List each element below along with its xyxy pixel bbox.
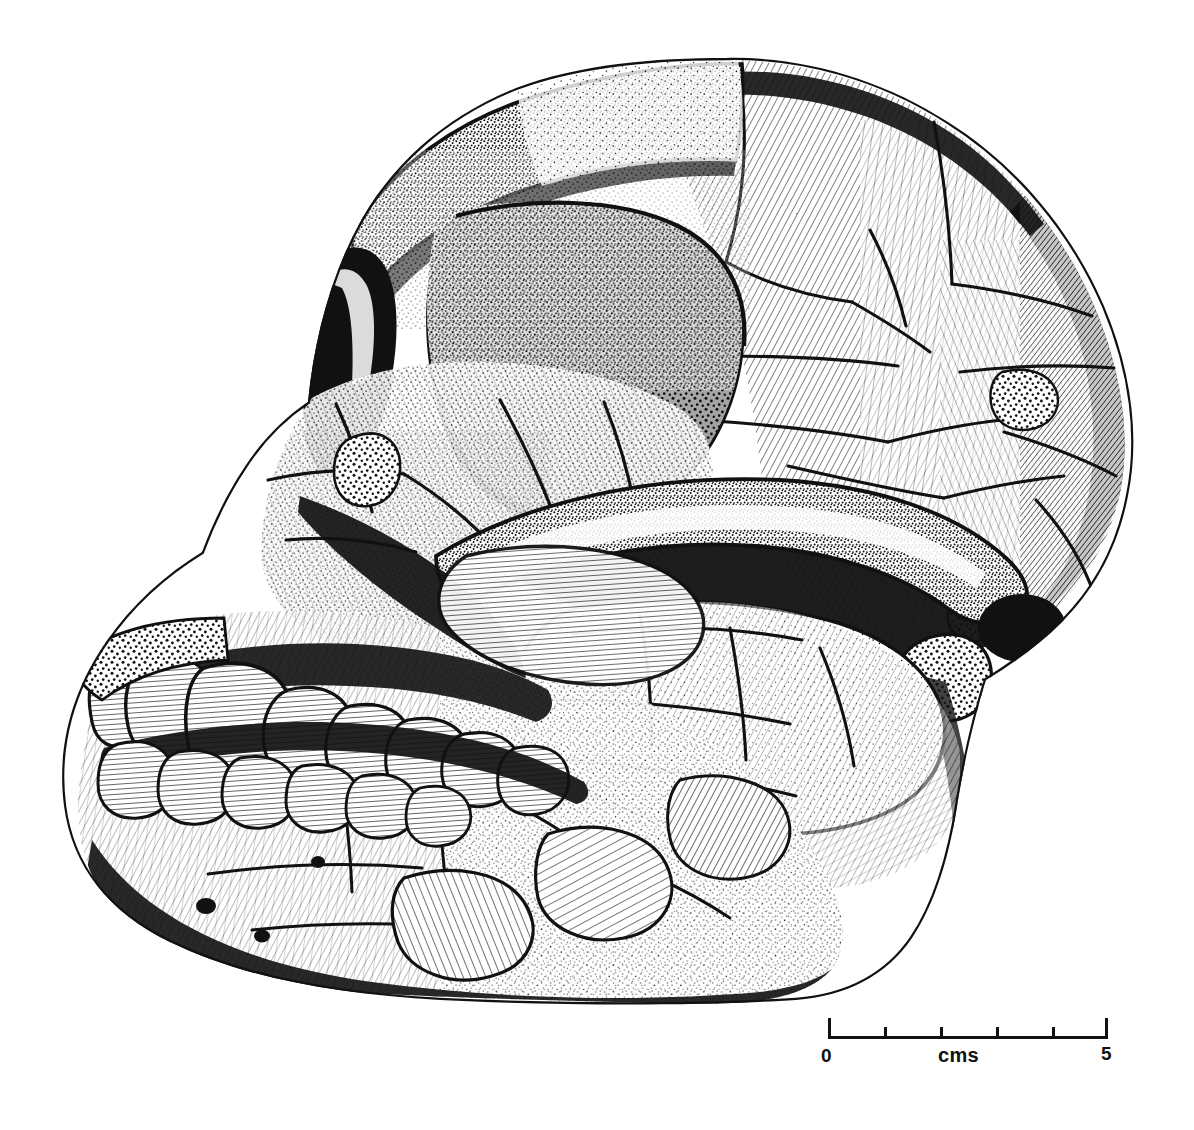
scale-tick-5: [1105, 1018, 1108, 1039]
scale-tick-1: [884, 1027, 887, 1039]
maxilla-damage-nodule: [334, 434, 400, 507]
figure-canvas: Black and white stippled pen-and-ink dra…: [0, 0, 1194, 1130]
scale-bar-end-label: 5: [1101, 1043, 1112, 1065]
scale-tick-4: [1052, 1027, 1055, 1039]
scale-tick-2: [940, 1027, 943, 1039]
scale-tick-3: [996, 1027, 999, 1039]
scale-tick-0: [828, 1018, 831, 1039]
skull-illustration: Black and white stippled pen-and-ink dra…: [0, 0, 1194, 1130]
scale-bar-start-label: 0: [821, 1045, 832, 1067]
scale-bar-unit-label: cms: [938, 1044, 979, 1067]
scale-bar-rule: [828, 1036, 1108, 1039]
scale-bar: 0 cms 5: [820, 1012, 1120, 1082]
